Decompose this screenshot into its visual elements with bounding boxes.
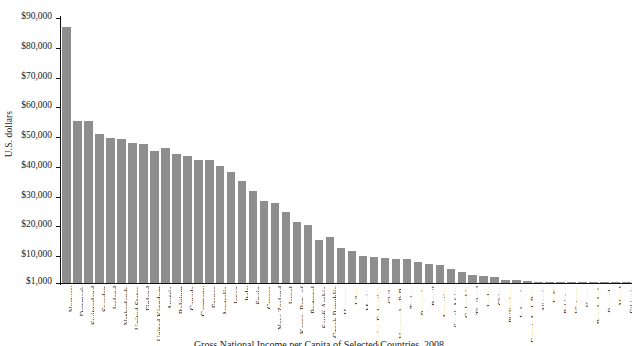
x-axis-label-slot: Chile [379, 286, 390, 346]
bar-slot [127, 18, 138, 283]
bar-slot [61, 18, 72, 283]
bar[interactable] [436, 265, 445, 283]
x-axis-label-slot: Jordan [478, 286, 489, 346]
bar[interactable] [95, 134, 104, 283]
x-axis-label: Ethiopia [630, 286, 632, 314]
x-axis-label-slot: Turkey [401, 286, 412, 346]
bar[interactable] [161, 148, 170, 283]
bar[interactable] [73, 121, 82, 283]
bar[interactable] [194, 160, 203, 283]
x-axis-label-slot: India [544, 286, 555, 346]
x-axis-label-slot: Portugal [303, 286, 314, 346]
x-axis-label-slot: Kenya [577, 286, 588, 346]
bar[interactable] [249, 191, 258, 283]
bar[interactable] [304, 225, 313, 283]
bar[interactable] [622, 282, 631, 283]
bar-slot [456, 18, 467, 283]
bar[interactable] [238, 181, 247, 283]
x-axis-label-slot: United States [127, 286, 138, 346]
bar[interactable] [348, 251, 357, 283]
bar[interactable] [359, 256, 368, 283]
x-axis-label-slot: Nigeria [533, 286, 544, 346]
x-axis-label-slot: Greece [259, 286, 270, 346]
bar[interactable] [337, 248, 346, 283]
bar[interactable] [260, 201, 269, 283]
bar[interactable] [381, 258, 390, 283]
bar-slot [325, 18, 336, 283]
x-axis-label-slot: China [489, 286, 500, 346]
bar[interactable] [468, 275, 477, 283]
x-axis-label-slot: Finland [138, 286, 149, 346]
bar[interactable] [556, 282, 565, 283]
bar[interactable] [403, 259, 412, 283]
bar[interactable] [458, 272, 467, 283]
bar[interactable] [523, 281, 532, 283]
bar[interactable] [392, 259, 401, 284]
bar[interactable] [479, 276, 488, 283]
x-axis-label-slot: Venezuela, R.B. [390, 286, 401, 346]
bar[interactable] [447, 269, 456, 283]
x-axis-label-slot: Japan [226, 286, 237, 346]
bar[interactable] [293, 222, 302, 283]
bar[interactable] [183, 156, 192, 283]
bar-slot [215, 18, 226, 283]
bar[interactable] [84, 121, 93, 283]
bar-slot [610, 18, 621, 283]
bar-slot [478, 18, 489, 283]
bar-slot [237, 18, 248, 283]
bar[interactable] [414, 262, 423, 283]
x-axis-label-slot: Egypt, Arab Rep. [522, 286, 533, 346]
bar[interactable] [600, 282, 609, 283]
bar[interactable] [545, 282, 554, 283]
bar[interactable] [578, 282, 587, 283]
bar-slot [434, 18, 445, 283]
bar[interactable] [62, 27, 71, 283]
bar[interactable] [425, 264, 434, 283]
bar[interactable] [106, 138, 115, 283]
bar[interactable] [216, 166, 225, 283]
bar[interactable] [611, 282, 620, 283]
bar-slot [511, 18, 522, 283]
bar-slot [281, 18, 292, 283]
bar[interactable] [282, 212, 291, 283]
x-axis-label-slot: Ethiopia [621, 286, 632, 346]
bar-slot [347, 18, 358, 283]
bar[interactable] [589, 282, 598, 283]
x-axis-label-slot: Pakistan [555, 286, 566, 346]
bar[interactable] [150, 151, 159, 283]
bar[interactable] [117, 139, 126, 283]
bar-slot [500, 18, 511, 283]
bar[interactable] [534, 282, 543, 283]
bar[interactable] [227, 172, 236, 283]
x-axis-label-slot: Mexico [357, 286, 368, 346]
bar[interactable] [326, 237, 335, 283]
bar[interactable] [128, 143, 137, 283]
bar[interactable] [172, 154, 181, 283]
bar[interactable] [139, 144, 148, 283]
bar-slot [160, 18, 171, 283]
bar[interactable] [315, 240, 324, 283]
bar-slot [116, 18, 127, 283]
y-axis-tick-label: $1,000 [26, 276, 52, 286]
bar-slot [292, 18, 303, 283]
bar-slot [368, 18, 379, 283]
bar[interactable] [370, 257, 379, 283]
y-axis-tick-label: $80,000 [21, 41, 52, 51]
x-axis-label-slot: Indonesia [511, 286, 522, 346]
bar-slot [566, 18, 577, 283]
bar-slot [522, 18, 533, 283]
bar-slot [412, 18, 423, 283]
bar[interactable] [205, 160, 214, 283]
bar-slot [445, 18, 456, 283]
x-axis-label-slot: Austria [160, 286, 171, 346]
x-axis-label-slot: Israel [281, 286, 292, 346]
bar[interactable] [512, 280, 521, 283]
x-axis-label-slot: Hungary [336, 286, 347, 346]
bar-slot [259, 18, 270, 283]
bar[interactable] [490, 277, 499, 283]
bar[interactable] [271, 203, 280, 283]
bar[interactable] [501, 280, 510, 283]
bar-slot [533, 18, 544, 283]
bar-slot [379, 18, 390, 283]
bar[interactable] [567, 282, 576, 283]
